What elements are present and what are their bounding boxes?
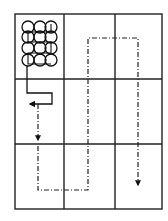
circle-cluster xyxy=(22,21,57,66)
dash-dot-scan-path xyxy=(38,38,138,190)
grid-path-diagram xyxy=(0,0,168,221)
solid-exit-path xyxy=(27,66,52,104)
serpentine-path xyxy=(28,24,51,64)
